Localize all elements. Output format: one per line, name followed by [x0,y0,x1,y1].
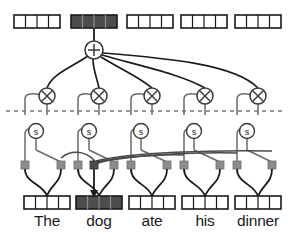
svg-text:s: s [34,127,39,137]
token-label-dinner: dinner [228,212,288,230]
terminal-square [21,161,29,169]
terminal-square [110,161,118,169]
token-vector-box [182,196,228,209]
svg-text:s: s [87,127,92,137]
softmax-node: s [78,124,97,151]
token-vector-box [235,196,281,209]
top-vector-box [127,15,173,28]
token-label-dog: dog [69,212,129,230]
token-vector-box [129,196,175,209]
token-label-the: The [17,212,77,230]
diagram-canvas: s s s s [0,0,288,245]
terminal-square-selected [90,161,98,169]
terminal-square [233,161,241,169]
terminal-square [163,161,171,169]
top-vector-row [14,15,281,28]
token-label-his: his [175,212,235,230]
softmax-node: s [184,124,202,151]
token-vector-box [24,196,70,209]
terminal-square [216,161,224,169]
terminal-square [127,161,135,169]
token-label-ate: ate [122,212,182,230]
network-diagram: s s s s [0,0,288,245]
top-vector-box [14,15,60,28]
token-vector-box-highlighted [76,196,122,209]
terminal-square [180,161,188,169]
sum-node [85,41,103,59]
svg-text:s: s [192,127,197,137]
terminal-square-row [21,161,276,169]
svg-text:s: s [139,127,144,137]
attention-edges [47,53,258,88]
softmax-node-group: s s s s [25,124,255,151]
terminal-square [268,161,276,169]
terminal-square [74,161,82,169]
softmax-node: s [237,124,255,151]
top-vector-box [181,15,227,28]
svg-text:s: s [245,127,250,137]
softmax-node: s [131,124,149,151]
top-vector-box [235,15,281,28]
terminal-square [57,161,65,169]
softmax-node: s [25,124,44,151]
embedding-edges [25,169,272,196]
token-vector-row [24,196,281,209]
top-vector-box-highlighted [71,15,117,28]
